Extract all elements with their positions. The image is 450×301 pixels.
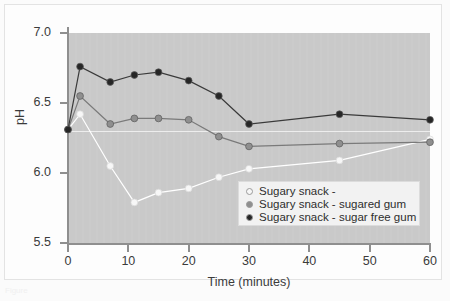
legend-label: Sugary snack - sugar free gum xyxy=(259,211,416,224)
legend-label: Sugary snack - xyxy=(259,185,336,198)
x-tick-label: 30 xyxy=(229,255,269,268)
x-tick-label: 0 xyxy=(48,255,88,268)
y-tick xyxy=(60,102,67,104)
x-tick xyxy=(67,245,69,252)
legend-item[interactable]: Sugary snack - xyxy=(244,185,414,198)
x-tick xyxy=(429,245,431,252)
figure-page: 5.56.06.57.0 0102030405060 pH Time (minu… xyxy=(0,0,450,301)
figure-frame: 5.56.06.57.0 0102030405060 pH Time (minu… xyxy=(4,4,442,280)
legend-item[interactable]: Sugary snack - sugared gum xyxy=(244,198,414,211)
x-axis-title: Time (minutes) xyxy=(68,275,430,289)
y-tick-label: 7.0 xyxy=(5,26,51,39)
y-tick xyxy=(60,242,67,244)
x-tick-label: 50 xyxy=(350,255,390,268)
x-tick xyxy=(369,245,371,252)
y-tick xyxy=(60,32,67,34)
chart-legend[interactable]: Sugary snack -Sugary snack - sugared gum… xyxy=(238,181,420,226)
x-tick xyxy=(248,245,250,252)
legend-label: Sugary snack - sugared gum xyxy=(259,198,406,211)
legend-marker-icon xyxy=(246,214,253,221)
x-tick-label: 10 xyxy=(108,255,148,268)
legend-marker-icon xyxy=(246,188,253,195)
x-tick-label: 20 xyxy=(169,255,209,268)
y-axis-title: pH xyxy=(13,109,27,125)
y-tick xyxy=(60,172,67,174)
y-axis-line xyxy=(67,27,69,243)
x-tick-label: 40 xyxy=(289,255,329,268)
y-tick-label: 6.5 xyxy=(5,96,51,109)
x-tick xyxy=(308,245,310,252)
y-tick-label: 6.0 xyxy=(5,166,51,179)
x-tick xyxy=(127,245,129,252)
x-tick xyxy=(188,245,190,252)
reference-line-critical-ph xyxy=(68,131,430,132)
figure-caption: Figure xyxy=(5,286,28,295)
x-tick-label: 60 xyxy=(410,255,450,268)
legend-item[interactable]: Sugary snack - sugar free gum xyxy=(244,211,414,224)
legend-marker-icon xyxy=(246,201,253,208)
y-tick-label: 5.5 xyxy=(5,236,51,249)
